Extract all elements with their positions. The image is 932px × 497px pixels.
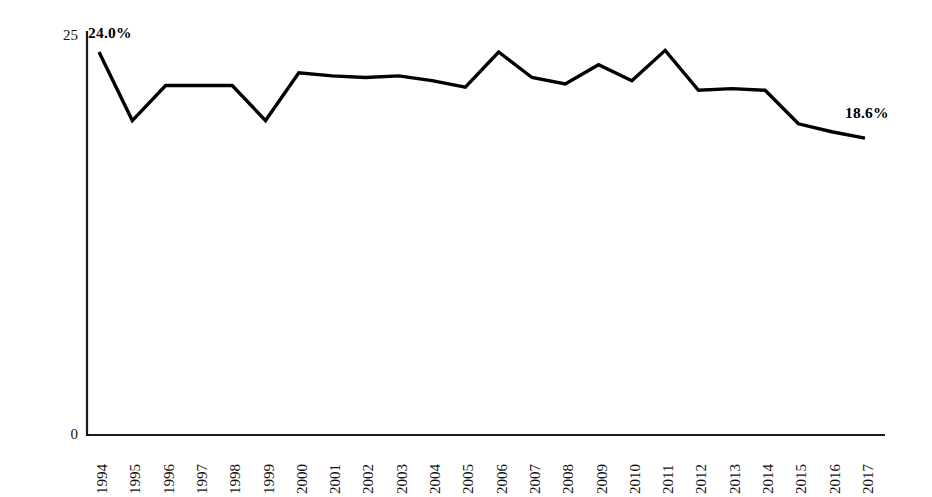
x-axis-tick-1996: 1996 xyxy=(160,438,178,494)
x-axis-tick-2005: 2005 xyxy=(459,438,477,494)
x-axis-tick-2007: 2007 xyxy=(526,438,544,494)
x-axis-tick-2017: 2017 xyxy=(859,438,877,494)
data-series-line xyxy=(99,50,865,138)
x-axis-tick-1995: 1995 xyxy=(126,438,144,494)
x-axis-tick-1994: 1994 xyxy=(93,438,111,494)
y-axis-tick-labels: 25 0 xyxy=(44,0,78,497)
x-axis-tick-2002: 2002 xyxy=(359,438,377,494)
x-axis-tick-2000: 2000 xyxy=(293,438,311,494)
x-axis-tick-1997: 1997 xyxy=(193,438,211,494)
x-axis-tick-1999: 1999 xyxy=(260,438,278,494)
x-axis-tick-2016: 2016 xyxy=(826,438,844,494)
x-axis-tick-2015: 2015 xyxy=(792,438,810,494)
x-axis-tick-2008: 2008 xyxy=(559,438,577,494)
x-axis-tick-2012: 2012 xyxy=(692,438,710,494)
start-value-annotation: 24.0% xyxy=(88,24,132,42)
x-axis-tick-2003: 2003 xyxy=(393,438,411,494)
end-value-annotation: 18.6% xyxy=(845,104,889,122)
x-axis-tick-2011: 2011 xyxy=(659,438,677,494)
x-axis-tick-2006: 2006 xyxy=(493,438,511,494)
plot-area xyxy=(86,30,886,436)
x-axis-tick-2009: 2009 xyxy=(593,438,611,494)
line-chart-figure: Pecentage of Fatal Crashes Involving a T… xyxy=(0,0,932,497)
plot-svg xyxy=(86,30,886,436)
y-axis-tick-25: 25 xyxy=(44,27,78,44)
x-axis-tick-1998: 1998 xyxy=(226,438,244,494)
x-axis-tick-2001: 2001 xyxy=(326,438,344,494)
x-axis-tick-2013: 2013 xyxy=(726,438,744,494)
x-axis-tick-2004: 2004 xyxy=(426,438,444,494)
x-axis-tick-2010: 2010 xyxy=(626,438,644,494)
x-axis-tick-2014: 2014 xyxy=(759,438,777,494)
y-axis-title-container: Pecentage of Fatal Crashes Involving a T… xyxy=(14,30,40,430)
y-axis-tick-0: 0 xyxy=(44,426,78,443)
x-axis-tick-labels: 1994199519961997199819992000200120022003… xyxy=(86,440,886,497)
